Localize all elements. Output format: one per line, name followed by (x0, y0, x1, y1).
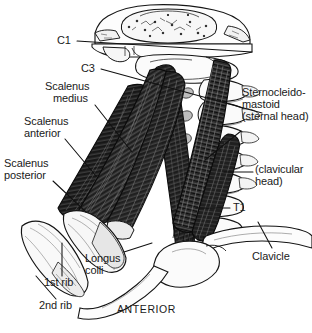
label-scm-line2: mastoid (242, 98, 280, 111)
label-longus-colli-line2: colli (85, 264, 103, 277)
label-scalenus-medius-line1: Scalenus (45, 80, 89, 93)
label-clavicle: Clavicle (252, 250, 290, 263)
label-scalenus-medius-line2: medius (53, 92, 88, 105)
label-clavicular-head-line1: (clavicular (255, 163, 303, 176)
label-clavicular-head-line2: head) (255, 175, 283, 188)
label-scalenus-posterior-line2: posterior (4, 169, 46, 182)
label-anterior: ANTERIOR (117, 303, 176, 316)
label-c1: C1 (57, 34, 71, 47)
label-first-rib: 1st rib (44, 276, 73, 289)
label-second-rib: 2nd rib (39, 299, 72, 312)
label-scalenus-anterior-line2: anterior (24, 127, 61, 140)
label-scalenus-posterior-line1: Scalenus (4, 157, 48, 170)
anatomy-figure: C1 C3 Scalenus medius Scalenus anterior … (0, 0, 312, 333)
label-c3: C3 (81, 62, 95, 75)
label-longus-colli-line1: Longus (85, 252, 121, 265)
label-scm-line1: Sternocleido- (242, 86, 306, 99)
label-t1: T1 (233, 201, 246, 214)
label-scm-line3: (sternal head) (242, 110, 308, 123)
label-scalenus-anterior-line1: Scalenus (24, 115, 68, 128)
